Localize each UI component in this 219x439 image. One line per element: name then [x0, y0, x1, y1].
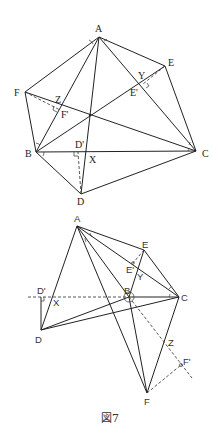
bottom-figure: A E E' Y B C D' X D Z F' F [28, 213, 192, 407]
top-figure: A E F B C D D' X Z F' Y E' [14, 23, 209, 207]
label-D: D [77, 196, 84, 207]
label-Y-bottom: Y [137, 271, 144, 282]
label-F-bottom: F [144, 396, 150, 407]
label-D-bottom: D [35, 334, 42, 345]
label-E-prime: E' [130, 87, 138, 98]
label-C: C [202, 148, 209, 159]
geometry-figure: A E F B C D D' X Z F' Y E' [0, 0, 219, 439]
figure-caption: 図7 [101, 412, 119, 425]
label-F-prime: F' [61, 109, 69, 120]
label-E-bottom: E [142, 239, 148, 250]
label-Z-bottom: Z [168, 337, 174, 348]
label-F: F [14, 87, 20, 98]
label-A: A [95, 23, 103, 34]
label-D-prime-bottom: D' [37, 285, 46, 296]
label-B-bottom: B [124, 285, 130, 296]
label-E: E [168, 57, 174, 68]
label-B: B [25, 148, 32, 159]
label-Z: Z [55, 94, 61, 105]
label-E-prime-bottom: E' [126, 264, 134, 275]
label-X-bottom: X [53, 297, 60, 308]
label-A-bottom: A [74, 213, 81, 224]
label-C-bottom: C [181, 292, 188, 303]
label-Y: Y [138, 70, 145, 81]
label-X: X [89, 154, 97, 165]
label-F-prime-bottom: F' [183, 356, 191, 367]
label-D-prime: D' [75, 139, 84, 150]
